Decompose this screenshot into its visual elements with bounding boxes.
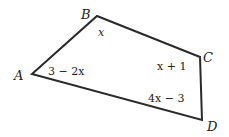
angle-label-c: x + 1	[157, 60, 186, 73]
vertex-label-b: B	[80, 7, 91, 22]
quadrilateral-diagram: A B C D x 3 − 2x x + 1 4x − 3	[0, 0, 229, 137]
vertex-label-a: A	[13, 68, 23, 83]
angle-label-d: 4x − 3	[148, 92, 184, 105]
angle-label-a: 3 − 2x	[48, 65, 85, 78]
vertex-label-d: D	[206, 119, 218, 134]
vertex-label-c: C	[203, 50, 213, 65]
angle-label-b: x	[98, 26, 105, 39]
